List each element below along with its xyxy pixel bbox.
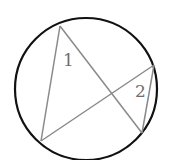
geometry-figure: 1 2	[0, 0, 171, 160]
chord-ab	[41, 26, 60, 141]
chord-bc	[41, 65, 154, 141]
angle-label-1: 1	[63, 50, 74, 70]
angle-label-2: 2	[135, 81, 146, 101]
chord-ad	[60, 26, 142, 133]
diagram-canvas: 1 2	[0, 0, 171, 160]
